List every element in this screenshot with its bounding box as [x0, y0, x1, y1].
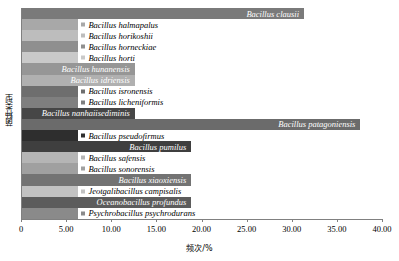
x-axis-tick	[156, 219, 157, 222]
bar	[22, 41, 78, 52]
bar	[22, 97, 78, 108]
bar-row	[22, 119, 383, 130]
bar	[22, 119, 360, 130]
bar-row	[22, 174, 383, 185]
bar	[22, 152, 78, 163]
bar-row	[22, 19, 383, 30]
bar-row	[22, 186, 383, 197]
bar-row	[22, 41, 383, 52]
bar	[22, 163, 78, 174]
x-axis-tick-label: 10.00	[102, 224, 121, 234]
bar	[22, 208, 78, 219]
x-axis-tick-label: 40.00	[372, 224, 391, 234]
bar-chart: 菌种类型 Bacillus clausiiBacillus halmapalus…	[0, 0, 399, 261]
bar	[22, 86, 78, 97]
x-axis-tick-label: 20.00	[192, 224, 211, 234]
bar-row	[22, 152, 383, 163]
bar	[22, 52, 78, 63]
bar-series	[22, 8, 383, 219]
x-axis-tick	[111, 219, 112, 222]
x-axis-tick	[337, 219, 338, 222]
bar-row	[22, 208, 383, 219]
y-axis-title-text: 菌种类型	[4, 94, 15, 126]
x-axis-title: 频次/%	[0, 242, 399, 253]
x-axis-tick	[202, 219, 203, 222]
bar-row	[22, 108, 383, 119]
bar	[22, 130, 78, 141]
x-axis-tick-label: 25.00	[237, 224, 256, 234]
bar-row	[22, 141, 383, 152]
x-axis-tick	[247, 219, 248, 222]
bar-row	[22, 130, 383, 141]
bar	[22, 30, 78, 41]
bar	[22, 197, 191, 208]
y-axis-title: 菌种类型	[2, 0, 16, 219]
x-axis-tick	[292, 219, 293, 222]
x-axis-tick	[21, 219, 22, 222]
x-axis-tick-label: 5.00	[59, 224, 74, 234]
bar	[22, 63, 135, 74]
bar-row	[22, 52, 383, 63]
bar-row	[22, 30, 383, 41]
bar	[22, 141, 191, 152]
bar-row	[22, 75, 383, 86]
x-axis-tick-label: 15.00	[147, 224, 166, 234]
bar-row	[22, 97, 383, 108]
x-axis-tick	[66, 219, 67, 222]
bar	[22, 75, 135, 86]
x-axis-tick-label: 0	[19, 224, 23, 234]
plot-area	[21, 8, 383, 219]
x-axis-tick-label: 35.00	[327, 224, 346, 234]
bar-row	[22, 86, 383, 97]
bar-row	[22, 8, 383, 19]
x-axis-tick-label: 30.00	[282, 224, 301, 234]
bar-row	[22, 197, 383, 208]
x-axis-tick	[382, 219, 383, 222]
bar	[22, 108, 135, 119]
bar	[22, 174, 191, 185]
bar	[22, 19, 78, 30]
bar-row	[22, 163, 383, 174]
bar	[22, 8, 304, 19]
bar-row	[22, 63, 383, 74]
bar	[22, 186, 78, 197]
